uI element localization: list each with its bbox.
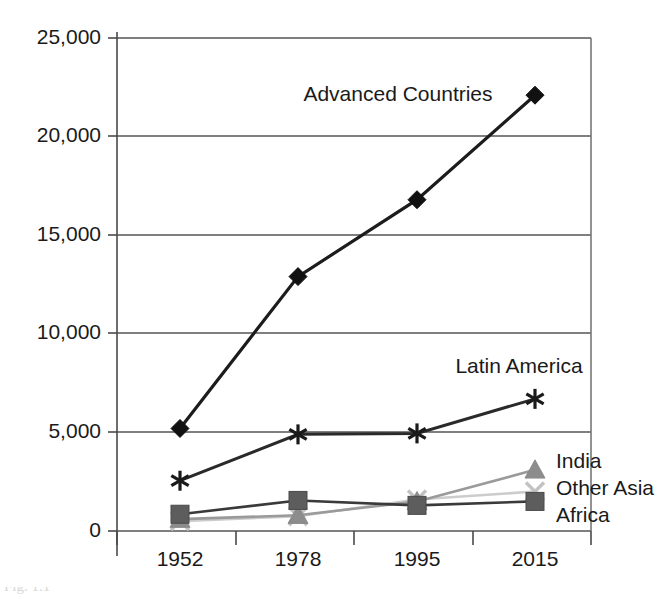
figure-caption-fragment: Fig. 1.1 [4, 587, 50, 595]
annotation-india: India [556, 449, 602, 472]
series-line-advanced-countries [180, 95, 535, 428]
figure-caption-strip: Fig. 1.1 [0, 587, 671, 599]
series-line-latin-america [180, 399, 535, 481]
annotation-advanced-countries: Advanced Countries [303, 82, 492, 105]
series-annotations: Advanced Countries Latin America India O… [303, 82, 654, 526]
marker-latin-america-1952 [171, 471, 188, 491]
y-axis-tick-labels: 25,000 20,000 15,000 10,000 5,000 0 [37, 25, 101, 541]
x-tick-label-1995: 1995 [394, 547, 441, 570]
marker-africa-2015 [526, 492, 544, 510]
y-tick-label-20000: 20,000 [37, 123, 101, 146]
figure-container: 25,000 20,000 15,000 10,000 5,000 0 1952… [0, 0, 671, 599]
marker-africa-1978 [289, 491, 307, 509]
annotation-latin-america: Latin America [455, 354, 583, 377]
series-layer [170, 86, 545, 530]
annotation-other-asia: Other Asia [556, 476, 654, 499]
marker-india-2015 [525, 460, 545, 478]
x-tick-label-1978: 1978 [275, 547, 322, 570]
x-tick-label-1952: 1952 [157, 547, 204, 570]
y-tick-label-25000: 25,000 [37, 25, 101, 48]
y-tick-label-5000: 5,000 [48, 419, 101, 442]
marker-latin-america-2015 [526, 389, 543, 409]
marker-africa-1952 [171, 505, 189, 523]
gridlines [117, 38, 591, 531]
marker-africa-1995 [408, 496, 426, 514]
x-axis-ticks [117, 531, 591, 545]
y-tick-label-10000: 10,000 [37, 320, 101, 343]
series-latin-america [171, 389, 543, 491]
annotation-africa: Africa [556, 503, 610, 526]
y-axis-ticks [108, 38, 117, 531]
x-axis-tick-labels: 1952 1978 1995 2015 [157, 547, 559, 570]
x-tick-label-2015: 2015 [512, 547, 559, 570]
series-advanced-countries [171, 86, 544, 437]
y-tick-label-15000: 15,000 [37, 222, 101, 245]
line-chart: 25,000 20,000 15,000 10,000 5,000 0 1952… [0, 0, 671, 599]
y-tick-label-0: 0 [89, 518, 101, 541]
series-other-asia [171, 483, 544, 531]
